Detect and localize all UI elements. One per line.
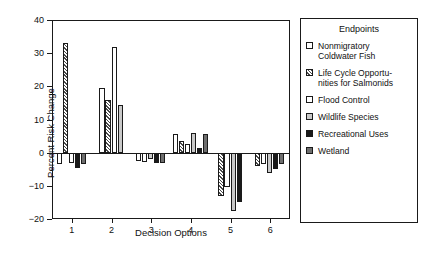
bar xyxy=(218,153,223,196)
legend-swatch-icon xyxy=(306,69,313,76)
y-tick xyxy=(47,120,52,121)
y-tick xyxy=(47,20,52,21)
bar xyxy=(160,153,165,163)
y-axis-line xyxy=(52,20,53,219)
y-tick-label: −20 xyxy=(29,214,44,224)
legend-item-label: Recreational Uses xyxy=(318,129,388,139)
x-tick-label: 1 xyxy=(69,225,74,235)
y-tick-label: −10 xyxy=(29,181,44,191)
x-tick-label: 5 xyxy=(228,225,233,235)
y-tick xyxy=(47,219,52,220)
bar xyxy=(224,153,229,188)
bar xyxy=(99,88,104,153)
bar xyxy=(136,153,141,161)
bar xyxy=(57,153,62,165)
legend-item[interactable]: NonmigratoryColdwater Fish xyxy=(306,41,412,61)
legend-swatch-icon xyxy=(306,113,313,120)
bar xyxy=(69,153,74,163)
bar xyxy=(279,153,284,165)
bar xyxy=(185,144,190,152)
bar xyxy=(191,133,196,153)
y-tick-label: 30 xyxy=(34,48,44,58)
x-tick-label: 6 xyxy=(268,225,273,235)
legend-swatch-icon xyxy=(306,147,313,154)
x-tick xyxy=(270,218,271,223)
legend-swatch-icon xyxy=(306,96,313,103)
plot-border-top xyxy=(52,20,290,21)
plot-border-right xyxy=(289,20,290,219)
x-axis-title: Decision Options xyxy=(52,227,290,238)
legend-item[interactable]: Life Cycle Opportu-nities for Salmonids xyxy=(306,68,412,88)
y-tick-label: 20 xyxy=(34,81,44,91)
x-tick-label: 3 xyxy=(149,225,154,235)
legend: Endpoints NonmigratoryColdwater FishLife… xyxy=(300,18,418,223)
bar xyxy=(142,153,147,162)
legend-swatch-icon xyxy=(306,42,313,49)
y-tick xyxy=(47,86,52,87)
x-tick xyxy=(231,218,232,223)
bar xyxy=(261,153,266,165)
y-tick xyxy=(47,153,52,154)
x-tick xyxy=(112,218,113,223)
x-tick-label: 2 xyxy=(109,225,114,235)
legend-item-label: Flood Control xyxy=(318,95,370,105)
y-tick-label: 10 xyxy=(34,115,44,125)
bar xyxy=(105,100,110,153)
bar xyxy=(237,153,242,203)
bar xyxy=(267,153,272,173)
legend-items: NonmigratoryColdwater FishLife Cycle Opp… xyxy=(306,41,412,156)
chart-figure: Percent Risk Change Decision Options −20… xyxy=(0,0,425,266)
bar xyxy=(197,148,202,153)
y-tick-label: 0 xyxy=(39,148,44,158)
bar xyxy=(203,134,208,152)
x-tick-label: 4 xyxy=(188,225,193,235)
bar xyxy=(75,153,80,168)
legend-title: Endpoints xyxy=(306,24,412,34)
legend-item[interactable]: Wetland xyxy=(306,146,412,156)
x-tick xyxy=(72,218,73,223)
bar xyxy=(179,141,184,153)
bar xyxy=(112,47,117,153)
legend-swatch-icon xyxy=(306,130,313,137)
bar xyxy=(173,134,178,152)
bar xyxy=(81,153,86,165)
plot-area: −20−10010203040 123456 xyxy=(52,20,290,219)
bar xyxy=(154,153,159,163)
bar xyxy=(255,153,260,166)
bar xyxy=(273,153,278,170)
legend-item[interactable]: Flood Control xyxy=(306,95,412,105)
legend-item-label: Wildlife Species xyxy=(318,112,379,122)
y-tick-label: 40 xyxy=(34,15,44,25)
x-tick xyxy=(151,218,152,223)
bar xyxy=(231,153,236,211)
bar xyxy=(148,153,153,160)
y-tick xyxy=(47,186,52,187)
legend-item-label: Wetland xyxy=(318,146,349,156)
bar xyxy=(63,43,68,152)
bar xyxy=(118,105,123,153)
legend-item-label: NonmigratoryColdwater Fish xyxy=(318,41,375,61)
legend-item[interactable]: Wildlife Species xyxy=(306,112,412,122)
x-tick xyxy=(191,218,192,223)
legend-item-label: Life Cycle Opportu-nities for Salmonids xyxy=(318,68,393,88)
legend-item[interactable]: Recreational Uses xyxy=(306,129,412,139)
x-axis-line xyxy=(52,218,290,219)
y-tick xyxy=(47,53,52,54)
